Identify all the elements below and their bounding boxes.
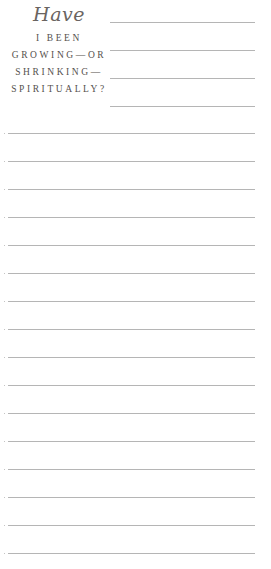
line-start-dot <box>4 553 5 554</box>
line-start-dot <box>4 161 5 162</box>
writing-line-full <box>8 133 255 134</box>
prompt-line-1: I BEEN <box>0 33 118 43</box>
writing-line-full <box>8 525 255 526</box>
prompt-line-4: SPIRITUALLY? <box>0 84 118 94</box>
prompt-script-word: Have <box>0 3 118 25</box>
line-start-dot <box>4 189 5 190</box>
writing-line-full <box>8 441 255 442</box>
writing-line-full <box>8 413 255 414</box>
writing-line-short <box>110 22 255 23</box>
line-start-dot <box>4 357 5 358</box>
writing-line-full <box>8 161 255 162</box>
line-start-dot <box>4 469 5 470</box>
writing-line-full <box>8 273 255 274</box>
writing-line-full <box>8 357 255 358</box>
writing-line-full <box>8 245 255 246</box>
prompt-line-3: SHRINKING— <box>0 67 118 77</box>
line-start-dot <box>4 133 5 134</box>
line-start-dot <box>4 525 5 526</box>
writing-line-full <box>8 301 255 302</box>
line-start-dot <box>4 385 5 386</box>
line-start-dot <box>4 497 5 498</box>
writing-line-short <box>110 50 255 51</box>
writing-line-full <box>8 217 255 218</box>
writing-line-full <box>8 329 255 330</box>
line-start-dot <box>4 301 5 302</box>
writing-line-full <box>8 553 255 554</box>
prompt-line-2: GROWING—OR <box>0 50 118 60</box>
writing-line-short <box>110 78 255 79</box>
line-start-dot <box>4 441 5 442</box>
writing-line-full <box>8 189 255 190</box>
line-start-dot <box>4 273 5 274</box>
writing-line-full <box>8 469 255 470</box>
line-start-dot <box>4 245 5 246</box>
writing-line-short <box>110 106 255 107</box>
writing-line-full <box>8 385 255 386</box>
writing-line-full <box>8 497 255 498</box>
line-start-dot <box>4 413 5 414</box>
line-start-dot <box>4 329 5 330</box>
line-start-dot <box>4 217 5 218</box>
